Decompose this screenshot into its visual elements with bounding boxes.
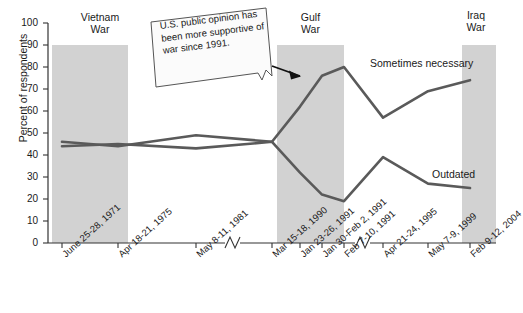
y-axis-tick-label: 50 xyxy=(12,127,38,138)
y-axis-tick-label: 90 xyxy=(12,39,38,50)
y-axis-tick-label: 100 xyxy=(12,17,38,28)
y-axis-ticks xyxy=(43,23,48,243)
series-label-outdated: Outdated xyxy=(432,168,475,180)
war-band-label-line2: War xyxy=(277,24,344,36)
y-axis-tick-label: 70 xyxy=(12,83,38,94)
callout-annotation: U.S. public opinion has been more suppor… xyxy=(150,12,265,86)
war-band-label-line2: War xyxy=(62,24,138,36)
war-band-label-line1: Vietnam xyxy=(62,12,138,24)
war-band-label-line1: Iraq xyxy=(455,10,497,22)
axis-break-mark xyxy=(225,237,240,248)
war-band-label: GulfWar xyxy=(277,12,344,35)
y-axis-tick-label: 30 xyxy=(12,171,38,182)
y-axis-tick-label: 20 xyxy=(12,193,38,204)
y-axis-tick-label: 60 xyxy=(12,105,38,116)
war-band-label: VietnamWar xyxy=(62,12,138,35)
y-axis-tick-label: 40 xyxy=(12,149,38,160)
callout-annotation-text: U.S. public opinion has been more suppor… xyxy=(150,0,270,58)
series-label-sometimes-necessary: Sometimes necessary xyxy=(370,57,473,69)
y-axis-tick-label: 0 xyxy=(12,237,38,248)
y-axis-tick-label: 10 xyxy=(12,215,38,226)
y-axis-tick-label: 80 xyxy=(12,61,38,72)
war-band-label-line2: War xyxy=(455,22,497,34)
war-band-label-line1: Gulf xyxy=(277,12,344,24)
war-band-label: IraqWar xyxy=(455,10,497,33)
